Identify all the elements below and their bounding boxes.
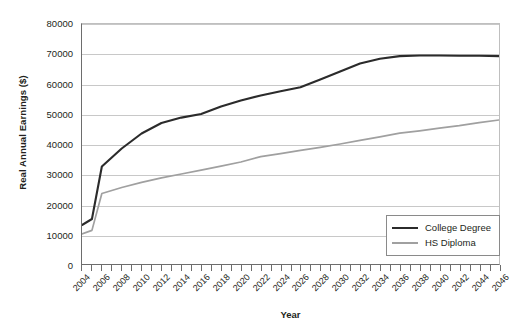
x-tick [141, 265, 142, 271]
x-tick [480, 265, 481, 271]
y-tick-label: 0 [68, 260, 73, 271]
x-tick [121, 265, 122, 271]
x-tick [101, 265, 102, 271]
y-tick-label: 80000 [47, 18, 73, 29]
x-tick [201, 265, 202, 271]
x-tick [310, 265, 311, 271]
x-axis-tick-labels: 2004200620082010201220142016201820202022… [81, 272, 500, 312]
x-tick [500, 265, 501, 271]
y-tick-label: 60000 [47, 78, 73, 89]
y-axis-title: Real Annual Earnings ($) [13, 0, 31, 265]
x-tick [390, 265, 391, 271]
y-axis-title-text: Real Annual Earnings ($) [17, 75, 28, 189]
y-tick-label: 10000 [47, 229, 73, 240]
legend-swatch-college-degree [392, 227, 418, 229]
legend-item: College Degree [392, 220, 494, 235]
x-tick [191, 265, 192, 271]
x-tick [460, 265, 461, 271]
x-tick [360, 265, 361, 271]
x-tick [181, 265, 182, 271]
x-tick [490, 265, 491, 271]
x-tick [221, 265, 222, 271]
series-line-college-degree [82, 55, 499, 225]
x-tick [261, 265, 262, 271]
y-tick-label: 70000 [47, 48, 73, 59]
legend-item: HS Diploma [392, 235, 494, 250]
x-tick [211, 265, 212, 271]
x-tick [380, 265, 381, 271]
x-tick [131, 265, 132, 271]
x-tick [420, 265, 421, 271]
legend-label: HS Diploma [425, 237, 476, 248]
x-tick [91, 265, 92, 271]
x-tick [400, 265, 401, 271]
y-tick-label: 30000 [47, 169, 73, 180]
y-axis-tick-labels: 0100002000030000400005000060000700008000… [30, 23, 77, 265]
x-tick [370, 265, 371, 271]
legend-swatch-hs-diploma [392, 242, 418, 244]
y-tick-label: 40000 [47, 139, 73, 150]
x-tick [410, 265, 411, 271]
x-tick [291, 265, 292, 271]
x-tick [111, 265, 112, 271]
x-tick [320, 265, 321, 271]
x-tick [271, 265, 272, 271]
x-tick [430, 265, 431, 271]
x-tick [470, 265, 471, 271]
x-tick [81, 265, 82, 271]
line-chart: Real Annual Earnings ($) 010000200003000… [0, 0, 527, 331]
y-tick-label: 50000 [47, 108, 73, 119]
x-tick [450, 265, 451, 271]
legend-label: College Degree [425, 222, 491, 233]
x-tick [340, 265, 341, 271]
x-tick [171, 265, 172, 271]
y-tick-label: 20000 [47, 199, 73, 210]
x-tick [251, 265, 252, 271]
x-tick [330, 265, 331, 271]
x-tick [161, 265, 162, 271]
chart-legend: College Degree HS Diploma [386, 215, 500, 256]
x-tick [231, 265, 232, 271]
x-tick [440, 265, 441, 271]
x-tick [281, 265, 282, 271]
x-axis-ticks [81, 265, 500, 272]
x-tick [151, 265, 152, 271]
x-tick [241, 265, 242, 271]
x-tick [350, 265, 351, 271]
x-axis-title: Year [81, 309, 500, 320]
x-tick [300, 265, 301, 271]
